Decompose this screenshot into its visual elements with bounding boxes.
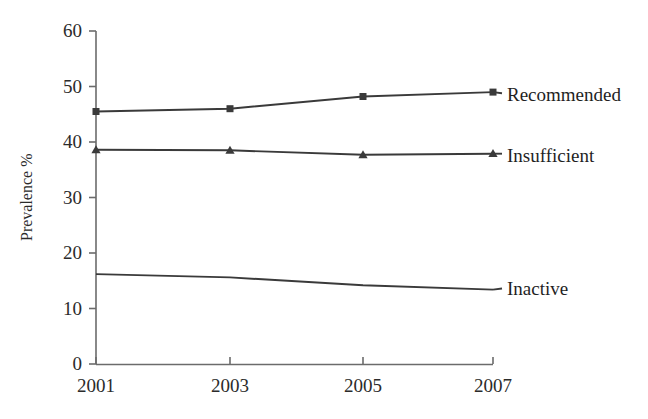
y-tick-label-40: 40: [42, 131, 82, 153]
legend-leader-recommended: [493, 92, 502, 93]
y-tick-label-10: 10: [42, 298, 82, 320]
y-axis-ticks: [89, 31, 96, 364]
series-label-inactive: Inactive: [507, 278, 568, 300]
line-chart-figure: Prevalence % 0 10 20 30 40 50 60 2001 20…: [0, 0, 648, 419]
series-line-recommended: [96, 92, 493, 111]
y-tick-label-50: 50: [42, 76, 82, 98]
x-tick-label-2001: 2001: [77, 375, 115, 397]
y-tick-label-0: 0: [42, 353, 82, 375]
series-line-insufficient: [96, 150, 493, 155]
x-tick-label-2005: 2005: [344, 375, 382, 397]
series-label-insufficient: Insufficient: [507, 145, 594, 167]
legend-leader-lines: [493, 92, 502, 290]
marker-square: [227, 105, 234, 112]
legend-leader-inactive: [493, 289, 502, 290]
x-tick-label-2003: 2003: [211, 375, 249, 397]
series-line-inactive: [96, 274, 493, 290]
y-tick-label-30: 30: [42, 187, 82, 209]
y-tick-label-20: 20: [42, 242, 82, 264]
y-tick-label-60: 60: [42, 20, 82, 42]
marker-square: [93, 108, 100, 115]
marker-square: [360, 93, 367, 100]
data-series-group: [91, 89, 497, 290]
y-axis-title: Prevalence %: [18, 153, 36, 241]
x-axis-ticks: [96, 357, 493, 364]
axes-group: [89, 31, 493, 365]
x-tick-label-2007: 2007: [474, 375, 512, 397]
plot-area: [0, 0, 648, 419]
series-label-recommended: Recommended: [507, 84, 621, 106]
